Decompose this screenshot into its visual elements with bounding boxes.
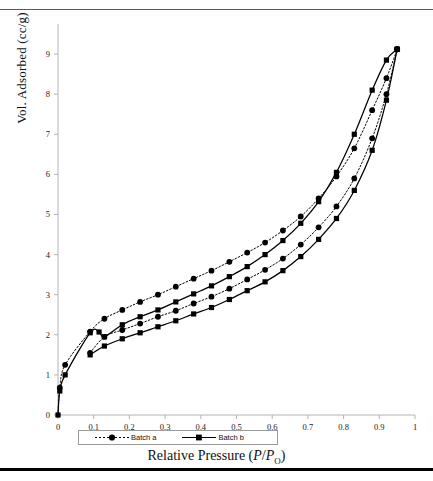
y-tick-label: 5	[36, 209, 50, 219]
data-point-square	[96, 329, 101, 334]
data-point-square	[63, 372, 68, 377]
data-point-circle	[351, 145, 357, 151]
legend-label-batch-a: Batch a	[131, 433, 156, 442]
x-tick-label: 1	[402, 422, 428, 432]
top-horizontal-rule	[0, 9, 433, 10]
chart-plot-area	[0, 12, 433, 432]
data-point-square	[155, 324, 160, 329]
data-point-square	[191, 311, 196, 316]
legend-marker-circle-dotted	[95, 433, 129, 442]
data-point-square	[173, 299, 178, 304]
y-tick-label: 6	[36, 169, 50, 179]
chart-legend: Batch a Batch b	[78, 430, 278, 445]
data-point-circle	[226, 259, 232, 265]
data-point-circle	[226, 286, 232, 292]
x-tick-label: 0.9	[366, 422, 392, 432]
x-axis-title-p2: P	[266, 448, 275, 463]
x-tick-label: 0.8	[331, 422, 357, 432]
data-point-circle	[244, 250, 250, 256]
data-point-square	[120, 322, 125, 327]
data-point-circle	[119, 327, 125, 333]
data-point-circle	[351, 175, 357, 181]
data-point-circle	[262, 240, 268, 246]
data-point-square	[227, 274, 232, 279]
series-line	[90, 49, 397, 355]
y-tick-label: 9	[36, 49, 50, 59]
data-point-square	[280, 238, 285, 243]
series-line	[58, 49, 397, 415]
x-tick-label: 0.7	[295, 422, 321, 432]
data-point-square	[280, 268, 285, 273]
y-tick-label: 4	[36, 250, 50, 260]
data-point-square	[262, 252, 267, 257]
data-point-square	[209, 283, 214, 288]
data-point-square	[209, 305, 214, 310]
legend-label-batch-b: Batch b	[218, 433, 243, 442]
data-point-circle	[102, 316, 108, 322]
data-point-square	[298, 221, 303, 226]
data-point-square	[334, 170, 339, 175]
x-axis-title-suffix: )	[281, 448, 286, 463]
data-point-square	[120, 336, 125, 341]
data-point-circle	[62, 362, 68, 368]
data-point-circle	[209, 268, 215, 274]
data-point-circle	[280, 256, 286, 262]
series-line	[58, 49, 397, 415]
y-tick-label: 1	[36, 370, 50, 380]
series-2	[87, 46, 400, 355]
data-point-circle	[369, 135, 375, 141]
data-point-circle	[334, 204, 340, 210]
data-point-square	[138, 314, 143, 319]
data-point-square	[138, 330, 143, 335]
data-point-square	[88, 330, 93, 335]
data-point-square	[262, 279, 267, 284]
y-tick-label: 7	[36, 129, 50, 139]
x-axis-title-p1: P	[253, 448, 262, 463]
data-point-circle	[155, 292, 161, 298]
data-point-square	[298, 254, 303, 259]
data-point-circle	[244, 277, 250, 283]
data-point-circle	[173, 284, 179, 290]
data-point-circle	[280, 228, 286, 234]
data-point-circle	[191, 301, 197, 307]
data-point-square	[227, 297, 232, 302]
data-point-square	[384, 57, 389, 62]
data-point-circle	[298, 242, 304, 248]
data-point-square	[370, 148, 375, 153]
data-point-origin	[56, 413, 61, 418]
data-point-square	[352, 188, 357, 193]
data-point-square	[334, 216, 339, 221]
data-point-circle	[316, 224, 322, 230]
data-point-circle	[155, 314, 161, 320]
y-tick-label: 2	[36, 330, 50, 340]
data-point-square	[316, 199, 321, 204]
data-point-square	[57, 388, 62, 393]
data-point-square	[245, 288, 250, 293]
legend-item-batch-b: Batch b	[182, 433, 243, 442]
data-point-circle	[137, 321, 143, 327]
series-1	[56, 46, 400, 417]
data-point-square	[370, 88, 375, 93]
data-point-circle	[209, 294, 215, 300]
data-point-square	[316, 237, 321, 242]
series-4	[88, 47, 400, 358]
legend-marker-square-solid	[182, 433, 216, 442]
x-axis-title-prefix: Relative Pressure (	[148, 448, 254, 463]
data-point-square	[352, 132, 357, 137]
data-point-circle	[262, 267, 268, 273]
data-point-circle	[137, 299, 143, 305]
x-axis-title: Relative Pressure (P/PO)	[0, 448, 433, 466]
data-point-circle	[119, 307, 125, 313]
data-point-square	[102, 334, 107, 339]
data-point-square	[88, 352, 93, 357]
x-tick-label: 0	[45, 422, 71, 432]
data-point-circle	[298, 214, 304, 220]
data-point-square	[395, 47, 400, 52]
figure-page: Vol. Adsorbed (cc/g) Relative Pressure (…	[0, 0, 433, 481]
data-point-square	[102, 343, 107, 348]
bottom-horizontal-rule	[0, 468, 433, 471]
data-point-square	[155, 307, 160, 312]
data-point-square	[384, 98, 389, 103]
y-tick-label: 0	[36, 410, 50, 420]
y-tick-label: 3	[36, 290, 50, 300]
